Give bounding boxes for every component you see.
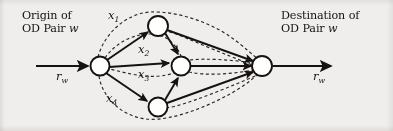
bottom-node (149, 98, 168, 117)
origin-node (91, 57, 110, 76)
destination-node (252, 56, 272, 76)
middle-node (172, 57, 191, 76)
top-node (148, 16, 168, 36)
network-diagram-canvas (0, 0, 393, 131)
